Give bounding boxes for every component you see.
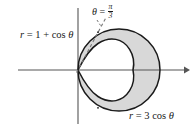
intersection-lower	[97, 107, 99, 109]
circle-theta-symbol: θ	[169, 110, 174, 121]
label-ray-angle: θ = π3	[92, 3, 113, 20]
cardioid-equation-body: = 1 + cos	[24, 29, 68, 40]
label-circle-equation: r = 3 cos θ	[129, 110, 174, 121]
theta-label-leader	[97, 20, 101, 26]
ray-equals-sign: =	[97, 6, 108, 17]
circle-equation-body: = 3 cos	[133, 110, 169, 121]
ray-angle-fraction: π3	[108, 3, 114, 20]
cardioid-theta-symbol: θ	[68, 29, 73, 40]
polar-curves-figure: r = 1 + cos θ θ = π3 r = 3 cos θ	[0, 0, 194, 129]
x-axis-arrowhead	[184, 67, 190, 74]
intersection-upper	[97, 31, 99, 33]
fraction-denominator: 3	[108, 12, 114, 20]
label-cardioid-equation: r = 1 + cos θ	[20, 29, 73, 40]
